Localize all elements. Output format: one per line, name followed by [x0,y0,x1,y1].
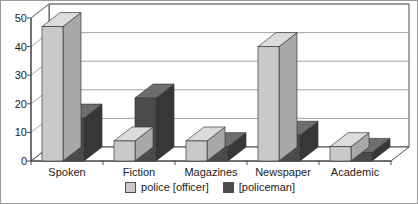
x-axis-label-academic: Academic [310,165,400,179]
legend-label: [policeman] [239,182,295,193]
bar-side-face [279,33,297,161]
y-axis-tick-10: 10 [3,127,27,137]
bar-side-face [63,13,81,161]
bar-newspaper-series1 [258,33,297,161]
chart-legend: police [officer][policeman] [1,182,418,193]
legend-item-2: [policeman] [223,182,295,193]
legend-swatch-icon [125,182,136,193]
y-axis-tick-20: 20 [3,99,27,109]
chart-figure: 01020304050 SpokenFictionMagazinesNewspa… [0,0,418,204]
y-axis-tick-40: 40 [3,42,27,52]
bar-front-face [258,47,279,161]
bar-front-face [330,147,351,161]
legend-label: police [officer] [141,182,209,193]
y-axis-tick-label: 50 [5,13,27,23]
y-axis-tick-50: 50 [3,13,27,23]
bar-front-face [114,141,135,161]
y-axis-tick-label: 10 [5,127,27,137]
legend-item-1: police [officer] [125,182,209,193]
bar-front-face [186,141,207,161]
chart-back-wall [49,4,409,147]
legend-swatch-icon [223,182,234,193]
y-axis-tick-label: 30 [5,70,27,80]
y-axis-tick-label: 20 [5,99,27,109]
y-axis-tick-30: 30 [3,70,27,80]
bar-spoken-series1 [42,13,81,161]
bar-front-face [42,27,63,161]
y-axis-tick-label: 40 [5,42,27,52]
